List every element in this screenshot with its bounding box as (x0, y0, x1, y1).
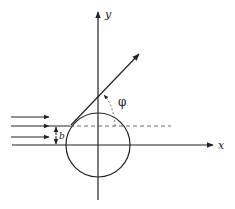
label-x: x (218, 139, 225, 152)
scattering-diagram: b φ y x (0, 0, 235, 209)
label-b: b (59, 131, 65, 141)
angle-arc (104, 95, 115, 126)
label-phi: φ (118, 95, 126, 109)
label-y: y (104, 8, 112, 21)
